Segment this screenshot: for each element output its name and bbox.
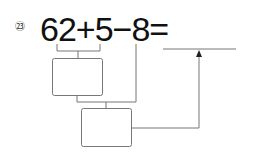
answer-box-step1[interactable] [53, 59, 103, 96]
bracket-62-5 [57, 44, 100, 51]
answer-box-step2[interactable] [82, 109, 132, 147]
diagram [0, 0, 254, 163]
arrow-up-icon [196, 50, 202, 57]
